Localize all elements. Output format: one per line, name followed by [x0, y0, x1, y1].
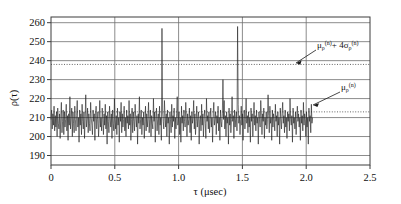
y-tick-label: 240 — [29, 55, 45, 66]
x-tick-label: 2.0 — [300, 172, 313, 183]
rho-tau-chart: 190200210220230240250260 00.51.01.52.02.… — [0, 0, 401, 204]
x-tick-label: 1.5 — [236, 172, 249, 183]
threshold-sigma-superscript: (n) — [352, 40, 359, 47]
x-tick-label: 2.5 — [363, 172, 376, 183]
y-tick-label: 250 — [29, 36, 45, 47]
x-tick-label: 0.5 — [108, 172, 121, 183]
x-axis-ticks: 00.51.01.52.02.5 — [48, 165, 376, 183]
x-axis-title: τ (μsec) — [194, 186, 227, 198]
y-axis-title: ρ(τ) — [8, 89, 20, 106]
y-tick-label: 220 — [29, 93, 45, 104]
mean-mu-superscript: (n) — [349, 82, 356, 89]
threshold-mu-superscript: (n) — [325, 40, 332, 47]
y-tick-label: 230 — [29, 74, 45, 85]
y-tick-label: 260 — [29, 17, 45, 28]
y-tick-label: 200 — [29, 131, 45, 142]
x-tick-label: 0 — [48, 172, 53, 183]
plot-background — [51, 17, 370, 165]
x-tick-label: 1.0 — [172, 172, 185, 183]
y-tick-label: 190 — [29, 150, 45, 161]
y-tick-label: 210 — [29, 112, 45, 123]
y-axis-ticks: 190200210220230240250260 — [29, 17, 51, 161]
threshold-operator: + 4 — [332, 40, 344, 50]
chart-figure: 190200210220230240250260 00.51.01.52.02.… — [0, 0, 401, 204]
